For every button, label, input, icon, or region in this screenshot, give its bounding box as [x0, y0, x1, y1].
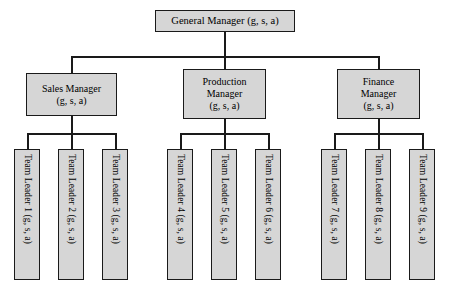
node-team-leader-6[interactable]: Team Leader 6 (g, s, a): [255, 149, 281, 280]
org-chart-diagram: General Manager (g, s, a) Sales Manager …: [0, 0, 450, 295]
node-finance-manager-label: Finance Manager (g, s, a): [361, 76, 397, 111]
node-team-leader-1-label: Team Leader 1 (g, s, a): [21, 154, 32, 244]
connector-drop-team-leader-8: [378, 133, 380, 149]
connector-production-manager-stem: [224, 119, 226, 133]
node-team-leader-2[interactable]: Team Leader 2 (g, s, a): [58, 149, 84, 280]
node-team-leader-9[interactable]: Team Leader 9 (g, s, a): [409, 149, 435, 280]
node-sales-manager-label: Sales Manager (g, s, a): [42, 83, 101, 107]
node-team-leader-2-label: Team Leader 2 (g, s, a): [65, 154, 76, 244]
connector-drop-team-leader-9: [422, 133, 424, 149]
node-finance-manager[interactable]: Finance Manager (g, s, a): [337, 69, 420, 119]
node-team-leader-6-label: Team Leader 6 (g, s, a): [262, 154, 273, 244]
connector-drop-team-leader-4: [180, 133, 182, 149]
node-production-manager[interactable]: Production Manager (g, s, a): [183, 69, 266, 119]
connector-gm-stem: [224, 32, 226, 56]
connector-drop-team-leader-6: [268, 133, 270, 149]
node-general-manager-label: General Manager (g, s, a): [171, 15, 278, 27]
node-team-leader-1[interactable]: Team Leader 1 (g, s, a): [14, 149, 40, 280]
node-team-leader-4-label: Team Leader 4 (g, s, a): [174, 154, 185, 244]
node-team-leader-8-label: Team Leader 8 (g, s, a): [372, 154, 383, 244]
connector-drop-sales-manager: [71, 56, 73, 73]
node-team-leader-8[interactable]: Team Leader 8 (g, s, a): [365, 149, 391, 280]
connector-finance-manager-stem: [378, 119, 380, 133]
node-team-leader-3-label: Team Leader 3 (g, s, a): [109, 154, 120, 244]
node-team-leader-5[interactable]: Team Leader 5 (g, s, a): [211, 149, 237, 280]
connector-drop-production-manager: [224, 56, 226, 69]
node-team-leader-5-label: Team Leader 5 (g, s, a): [218, 154, 229, 244]
connector-drop-team-leader-3: [115, 133, 117, 149]
connector-drop-finance-manager: [378, 56, 380, 69]
connector-drop-team-leader-2: [71, 133, 73, 149]
connector-drop-team-leader-5: [224, 133, 226, 149]
node-team-leader-7-label: Team Leader 7 (g, s, a): [328, 154, 339, 244]
node-team-leader-9-label: Team Leader 9 (g, s, a): [416, 154, 427, 244]
node-team-leader-4[interactable]: Team Leader 4 (g, s, a): [167, 149, 193, 280]
connector-sales-manager-stem: [71, 116, 73, 133]
connector-drop-team-leader-1: [27, 133, 29, 149]
node-production-manager-label: Production Manager (g, s, a): [203, 76, 247, 111]
node-general-manager[interactable]: General Manager (g, s, a): [155, 10, 295, 32]
connector-drop-team-leader-7: [334, 133, 336, 149]
node-sales-manager[interactable]: Sales Manager (g, s, a): [26, 73, 117, 116]
node-team-leader-7[interactable]: Team Leader 7 (g, s, a): [321, 149, 347, 280]
node-team-leader-3[interactable]: Team Leader 3 (g, s, a): [102, 149, 128, 280]
